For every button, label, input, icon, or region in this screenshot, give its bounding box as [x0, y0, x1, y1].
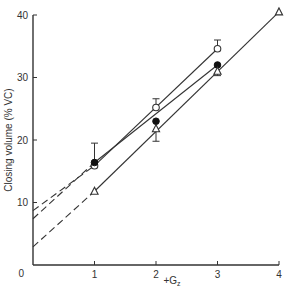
extrapolation-dashed-line [33, 163, 95, 219]
regression-line [95, 65, 218, 163]
error-bars [91, 40, 221, 163]
open-triangle-marker [214, 67, 221, 74]
chart: 0102030401234 Closing volume (% VC) +Gz [0, 0, 293, 288]
extrapolation-dashed-line [33, 166, 95, 211]
y-tick-label: 40 [17, 10, 29, 21]
open-circle-marker [214, 45, 221, 52]
open-triangle-marker [275, 8, 282, 15]
x-tick-label: 4 [276, 269, 282, 280]
regression-line [95, 12, 280, 191]
y-tick-label: 30 [17, 72, 29, 83]
x-axis-title: +Gz [163, 275, 181, 287]
y-axis-title: Closing volume (% VC) [3, 88, 14, 191]
open-circle-marker [153, 104, 160, 111]
y-tick-label: 0 [18, 268, 24, 279]
y-tick-label: 20 [17, 135, 29, 146]
x-tick-label: 1 [92, 269, 98, 280]
x-tick-label: 2 [153, 269, 159, 280]
extrapolation-dashed-line [33, 191, 95, 247]
filled-circle-marker [91, 159, 98, 166]
axes: 0102030401234 [17, 10, 282, 281]
y-tick-label: 10 [17, 197, 29, 208]
x-tick-label: 3 [215, 269, 221, 280]
